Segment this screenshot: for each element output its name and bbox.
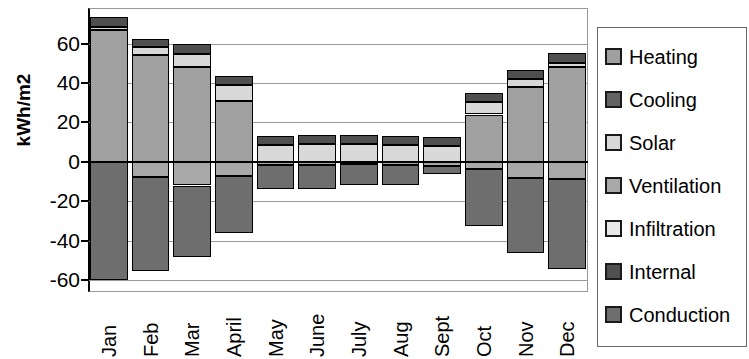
bar-column[interactable] [340, 8, 378, 292]
bar-segment-heating[interactable] [548, 67, 586, 162]
x-tick-label: Nov [518, 293, 534, 357]
x-tick-label: July [351, 293, 367, 357]
bar-column[interactable] [173, 8, 211, 292]
legend-label: Cooling [629, 90, 697, 110]
x-axis-tick-labels: JanFebMarAprilMayJuneJulyAugSeptOctNovDe… [88, 292, 588, 359]
x-tick-label: April [226, 293, 242, 357]
bar-segment-internal[interactable] [465, 93, 503, 102]
bar-segment-heating[interactable] [90, 30, 128, 162]
x-tick-label: Mar [184, 293, 200, 357]
y-tick-label: 0 [28, 151, 80, 172]
bar-column[interactable] [215, 8, 253, 292]
bar-column[interactable] [257, 8, 295, 292]
zero-axis-line [88, 161, 588, 163]
chart-root: kWh/m2 6040200-20-40-60 JanFebMarAprilMa… [0, 0, 749, 359]
legend-item[interactable]: Internal [605, 250, 746, 293]
bar-segment-solar[interactable] [90, 27, 128, 30]
bar-column[interactable] [382, 8, 420, 292]
bar-column[interactable] [423, 8, 461, 292]
bar-segment-internal[interactable] [548, 53, 586, 63]
bar-segment-internal[interactable] [382, 136, 420, 145]
bar-segment-solar[interactable] [382, 145, 420, 162]
legend-swatch-icon [605, 134, 622, 151]
x-tick-label: Sept [434, 293, 450, 357]
bar-segment-internal[interactable] [257, 136, 295, 145]
legend-label: Internal [629, 262, 696, 282]
legend-label: Infiltration [629, 219, 716, 239]
legend-swatch-icon [605, 177, 622, 194]
bar-segment-solar[interactable] [423, 146, 461, 162]
y-axis-tick-mark [81, 121, 89, 123]
bar-segment-solar[interactable] [548, 63, 586, 67]
bar-segment-heating[interactable] [215, 101, 253, 162]
bar-segment-internal[interactable] [215, 76, 253, 85]
y-axis-tick-mark [81, 200, 89, 202]
legend-label: Ventilation [629, 176, 721, 196]
bar-segment-ventilation[interactable] [548, 162, 586, 179]
bar-segment-solar[interactable] [257, 145, 295, 162]
legend-swatch-icon [605, 91, 622, 108]
bar-segment-conduction[interactable] [340, 164, 378, 186]
legend-item[interactable]: Cooling [605, 78, 746, 121]
bar-segment-heating[interactable] [465, 115, 503, 162]
bar-segment-ventilation[interactable] [465, 162, 503, 169]
bar-segment-solar[interactable] [132, 47, 170, 55]
bar-segment-internal[interactable] [340, 135, 378, 144]
bar-segment-internal[interactable] [173, 44, 211, 54]
bar-segment-conduction[interactable] [548, 179, 586, 270]
bar-segment-solar[interactable] [298, 144, 336, 162]
x-tick-label: Jan [101, 293, 117, 357]
x-tick-label: Feb [143, 293, 159, 357]
bar-segment-conduction[interactable] [465, 169, 503, 226]
bar-segment-solar[interactable] [465, 102, 503, 115]
bar-column[interactable] [465, 8, 503, 292]
bar-segment-ventilation[interactable] [132, 162, 170, 177]
legend-label: Heating [629, 47, 698, 67]
bar-column[interactable] [298, 8, 336, 292]
legend-swatch-icon [605, 48, 622, 65]
bar-segment-conduction[interactable] [173, 186, 211, 257]
bar-column[interactable] [548, 8, 586, 292]
bar-segment-conduction[interactable] [507, 178, 545, 253]
y-tick-label: 60 [28, 33, 80, 54]
bar-segment-internal[interactable] [132, 39, 170, 48]
legend-item[interactable]: Infiltration [605, 207, 746, 250]
bar-segment-solar[interactable] [340, 144, 378, 162]
x-tick-label: Oct [476, 293, 492, 357]
bar-segment-conduction[interactable] [90, 162, 128, 280]
bar-column[interactable] [90, 8, 128, 292]
bar-segment-conduction[interactable] [257, 165, 295, 190]
bar-segment-ventilation[interactable] [215, 162, 253, 176]
legend-item[interactable]: Heating [605, 35, 746, 78]
bar-segment-solar[interactable] [507, 79, 545, 87]
bar-segment-heating[interactable] [507, 87, 545, 162]
bar-segment-ventilation[interactable] [173, 162, 211, 186]
bar-segment-heating[interactable] [173, 67, 211, 162]
bar-segment-conduction[interactable] [382, 165, 420, 186]
bar-segment-conduction[interactable] [132, 177, 170, 272]
x-tick-label: May [268, 293, 284, 357]
y-axis-tick-mark [81, 82, 89, 84]
legend-item[interactable]: Conduction [605, 293, 746, 336]
bar-segment-heating[interactable] [132, 55, 170, 162]
chart-legend: HeatingCoolingSolarVentilationInfiltrati… [597, 27, 747, 347]
bar-segment-conduction[interactable] [423, 166, 461, 174]
bar-segment-internal[interactable] [423, 137, 461, 146]
bar-segment-conduction[interactable] [298, 165, 336, 190]
bar-segment-internal[interactable] [298, 135, 336, 144]
bar-column[interactable] [132, 8, 170, 292]
legend-item[interactable]: Ventilation [605, 164, 746, 207]
bar-segment-conduction[interactable] [215, 176, 253, 233]
y-tick-label: -40 [28, 230, 80, 251]
bar-series-container [88, 8, 588, 292]
bar-segment-internal[interactable] [90, 17, 128, 27]
bar-column[interactable] [507, 8, 545, 292]
legend-item[interactable]: Solar [605, 121, 746, 164]
bar-segment-ventilation[interactable] [507, 162, 545, 178]
bar-segment-solar[interactable] [215, 85, 253, 101]
bar-segment-internal[interactable] [507, 70, 545, 79]
legend-label: Solar [629, 133, 676, 153]
y-axis-tick-mark [81, 240, 89, 242]
bar-segment-solar[interactable] [173, 54, 211, 67]
x-tick-label: Aug [393, 293, 409, 357]
